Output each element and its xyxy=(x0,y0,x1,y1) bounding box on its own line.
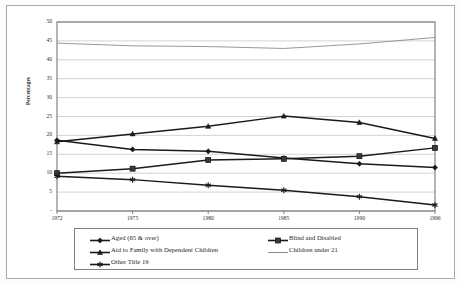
legend-line-icon xyxy=(267,247,289,258)
legend-key xyxy=(89,256,111,267)
legend-item-label: Children under 21 xyxy=(289,246,338,253)
legend-star-icon xyxy=(89,259,111,270)
legend-item-label: Other Title 19 xyxy=(111,258,149,265)
legend-item-label: Aged (65 & over) xyxy=(111,234,159,241)
x-tick-label: 1996 xyxy=(415,215,455,221)
legend-row: Aged (65 & over)Blind and Disabled xyxy=(75,231,417,243)
chart-legend: Aged (65 & over)Blind and DisabledAid to… xyxy=(74,228,418,270)
legend-item[interactable]: Aid to Family with Dependent Children xyxy=(75,243,267,255)
x-tick-label: 1990 xyxy=(339,215,379,221)
legend-key xyxy=(89,232,111,243)
chart-figure: Percentages 5045403530252015105- 1972197… xyxy=(0,0,461,285)
legend-item[interactable]: Aged (65 & over) xyxy=(75,231,267,243)
x-tick-label: 1972 xyxy=(37,215,77,221)
x-tick-label: 1985 xyxy=(264,215,304,221)
legend-item[interactable]: Children under 21 xyxy=(267,243,417,255)
legend-row: Other Title 19 xyxy=(75,255,417,267)
x-tick-label: 1980 xyxy=(188,215,228,221)
x-tick-label: 1975 xyxy=(113,215,153,221)
legend-key xyxy=(267,232,289,243)
legend-item[interactable]: Other Title 19 xyxy=(75,255,267,267)
legend-item-label: Aid to Family with Dependent Children xyxy=(111,246,218,253)
legend-item-label: Blind and Disabled xyxy=(289,234,341,241)
legend-row: Aid to Family with Dependent ChildrenChi… xyxy=(75,243,417,255)
legend-item[interactable]: Blind and Disabled xyxy=(267,231,417,243)
legend-key xyxy=(89,244,111,255)
legend-key xyxy=(267,244,289,255)
